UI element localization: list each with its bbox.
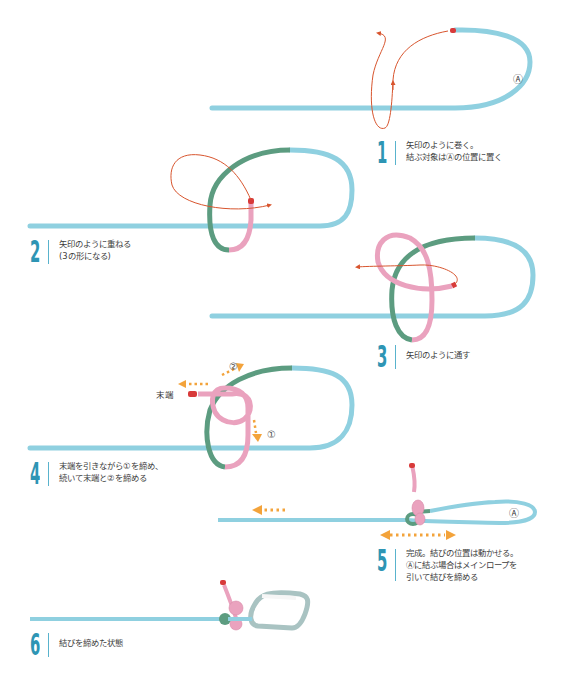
circled-1-label: ① xyxy=(267,429,276,440)
step-text: 完成。結びの位置は動かせる。Ⓐに結ぶ場合はメインロープを引いて結びを締める xyxy=(406,547,518,583)
divider xyxy=(48,240,49,264)
step-text: 矢印のように重ねる(3の形になる) xyxy=(59,238,131,262)
step-number: 3 xyxy=(377,343,385,371)
step-number: 5 xyxy=(377,547,385,575)
step-number: 2 xyxy=(30,238,38,266)
divider xyxy=(395,549,396,581)
step-text: 矢印のように巻く。結ぶ対象はⒶの位置に置く xyxy=(406,139,502,163)
step-3-caption: 3 矢印のように通す xyxy=(377,343,470,371)
step-2-caption: 2 矢印のように重ねる(3の形になる) xyxy=(30,238,131,266)
step-6-illustration xyxy=(30,580,308,630)
step-4-illustration: ② ① 末端 xyxy=(30,361,352,467)
step-text: 末端を引きながら①を締め、続いて末端と②を締める xyxy=(59,460,163,484)
step-1-caption: 1 矢印のように巻く。結ぶ対象はⒶの位置に置く xyxy=(377,139,502,167)
step-number: 6 xyxy=(30,631,38,659)
divider xyxy=(48,462,49,486)
divider xyxy=(395,141,396,165)
step-4-caption: 4 末端を引きながら①を締め、続いて末端と②を締める xyxy=(30,460,163,488)
step-5-caption: 5 完成。結びの位置は動かせる。Ⓐに結ぶ場合はメインロープを引いて結びを締める xyxy=(377,547,518,583)
step-text: 矢印のように通す xyxy=(406,343,470,361)
step-text: 結びを締めた状態 xyxy=(59,631,123,649)
svg-text:Ⓐ: Ⓐ xyxy=(509,508,519,519)
divider xyxy=(48,633,49,657)
rope-end xyxy=(450,28,456,33)
step-6-caption: 6 結びを締めた状態 xyxy=(30,631,123,659)
circled-2-label: ② xyxy=(229,361,238,372)
step-number: 4 xyxy=(30,460,38,488)
step-5-illustration: Ⓐ xyxy=(218,463,535,540)
step-2-illustration xyxy=(30,150,352,250)
divider xyxy=(395,345,396,369)
rope-end-label: 末端 xyxy=(156,390,174,400)
point-a-label: Ⓐ xyxy=(513,74,523,85)
wrap-arrow xyxy=(371,31,448,128)
step-3-illustration xyxy=(212,235,533,340)
pull-arrow-1 xyxy=(254,420,256,433)
step-1-illustration: Ⓐ xyxy=(212,28,530,128)
step-number: 1 xyxy=(377,139,385,167)
